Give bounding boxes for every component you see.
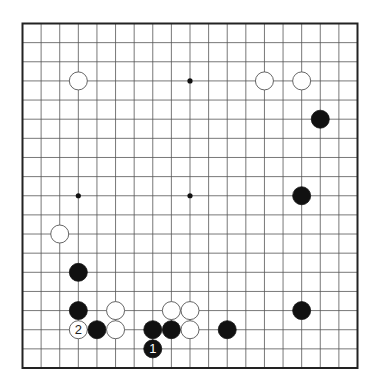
white-stone <box>181 302 199 320</box>
white-stone <box>107 302 125 320</box>
black-stone <box>144 321 162 339</box>
black-stone <box>311 110 329 128</box>
white-stone-disc <box>107 302 125 320</box>
black-stone <box>293 302 311 320</box>
white-stone <box>181 321 199 339</box>
black-stone: 1 <box>144 340 162 358</box>
black-stone <box>293 187 311 205</box>
white-stone-disc <box>107 321 125 339</box>
white-stone <box>162 302 180 320</box>
white-stone-disc <box>69 72 87 90</box>
white-stone-disc <box>181 321 199 339</box>
black-stone-disc <box>218 321 236 339</box>
black-stone <box>218 321 236 339</box>
black-stone-disc <box>144 321 162 339</box>
white-stone <box>255 72 273 90</box>
white-stone <box>69 72 87 90</box>
black-stone <box>88 321 106 339</box>
black-stone-disc <box>293 187 311 205</box>
star-point <box>187 193 192 198</box>
black-stone-disc <box>311 110 329 128</box>
white-stone-disc <box>255 72 273 90</box>
star-point <box>76 193 81 198</box>
white-stone-disc <box>293 72 311 90</box>
black-stone-disc <box>69 263 87 281</box>
star-point <box>187 78 192 83</box>
move-number-label: 1 <box>149 341 156 356</box>
white-stone-disc <box>51 225 69 243</box>
black-stone <box>69 302 87 320</box>
black-stone-disc <box>293 302 311 320</box>
white-stone <box>107 321 125 339</box>
white-stone-disc <box>162 302 180 320</box>
white-stone-disc <box>181 302 199 320</box>
move-number-label: 2 <box>75 322 82 337</box>
white-stone <box>293 72 311 90</box>
white-stone <box>51 225 69 243</box>
black-stone <box>69 263 87 281</box>
black-stone <box>162 321 180 339</box>
black-stone-disc <box>162 321 180 339</box>
white-stone: 2 <box>69 321 87 339</box>
go-board: 21 <box>0 0 379 389</box>
black-stone-disc <box>88 321 106 339</box>
black-stone-disc <box>69 302 87 320</box>
